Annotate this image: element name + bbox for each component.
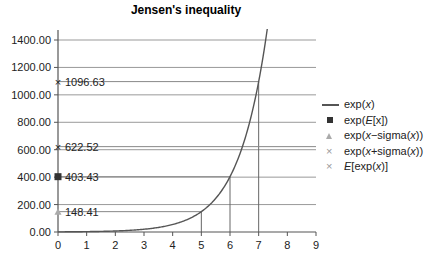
x-tick-label: 6 xyxy=(227,239,233,251)
y-tick-label: 1200.00 xyxy=(11,61,51,73)
marker-value-label: 403.43 xyxy=(65,171,99,183)
x-axis-ticks: 0123456789 xyxy=(55,232,319,251)
x-marker: × xyxy=(55,76,61,88)
legend-label: E[exp(x)] xyxy=(344,159,388,175)
y-tick-label: 400.00 xyxy=(17,171,51,183)
marker-value-label: 1096.63 xyxy=(65,76,105,88)
legend-item: ×E[exp(x)] xyxy=(322,159,423,175)
x-tick-label: 2 xyxy=(112,239,118,251)
y-tick-label: 0.00 xyxy=(30,226,51,238)
legend-label: exp(x−sigma(x)) xyxy=(344,128,423,144)
legend-x-icon: × xyxy=(322,144,344,160)
y-tick-label: 1000.00 xyxy=(11,89,51,101)
legend-label: exp(x+sigma(x)) xyxy=(344,144,423,160)
y-axis-ticks: 0.00200.00400.00600.00800.001000.001200.… xyxy=(11,34,58,238)
legend-square-icon xyxy=(322,117,344,123)
x-tick-label: 4 xyxy=(170,239,176,251)
y-tick-label: 1400.00 xyxy=(11,34,51,46)
legend-label: exp(E[x]) xyxy=(344,113,388,129)
asterisk-marker: × xyxy=(55,141,61,153)
marker-value-label: 148.41 xyxy=(65,206,99,218)
square-marker xyxy=(55,173,62,180)
x-tick-label: 5 xyxy=(198,239,204,251)
y-tick-label: 600.00 xyxy=(17,144,51,156)
x-tick-label: 3 xyxy=(141,239,147,251)
x-tick-label: 0 xyxy=(55,239,61,251)
y-tick-label: 800.00 xyxy=(17,116,51,128)
chart-title: Jensen's inequality xyxy=(131,3,242,17)
exp-curve xyxy=(58,29,267,232)
legend-line-icon xyxy=(322,104,344,106)
axes xyxy=(58,30,316,232)
x-tick-label: 9 xyxy=(313,239,319,251)
x-tick-label: 7 xyxy=(256,239,262,251)
x-tick-label: 1 xyxy=(84,239,90,251)
legend-item: ×exp(x+sigma(x)) xyxy=(322,144,423,160)
x-tick-label: 8 xyxy=(284,239,290,251)
marker-value-label: 622.52 xyxy=(65,141,99,153)
legend-label: exp(x) xyxy=(344,97,375,113)
legend-triangle-icon xyxy=(322,133,344,139)
legend-item: exp(x) xyxy=(322,97,423,113)
y-tick-label: 200.00 xyxy=(17,199,51,211)
legend: exp(x)exp(E[x])exp(x−sigma(x))×exp(x+sig… xyxy=(322,97,423,175)
legend-item: exp(x−sigma(x)) xyxy=(322,128,423,144)
legend-asterisk-icon: × xyxy=(322,159,344,175)
legend-item: exp(E[x]) xyxy=(322,113,423,129)
